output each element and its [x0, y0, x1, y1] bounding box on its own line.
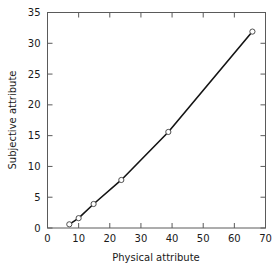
x-tick-label: 30 — [135, 233, 148, 244]
chart-plot-area: 010203040506070 05101520253035 Physical … — [0, 0, 278, 272]
data-point-marker — [91, 201, 96, 206]
figure-background — [0, 0, 278, 272]
x-tick-label: 70 — [259, 233, 272, 244]
data-point-marker — [119, 177, 124, 182]
data-point-marker — [166, 129, 171, 134]
y-tick-label: 10 — [28, 161, 41, 172]
x-tick-label: 10 — [72, 233, 85, 244]
y-tick-label: 0 — [34, 223, 40, 234]
x-tick-label: 60 — [228, 233, 241, 244]
data-point-marker — [250, 29, 255, 34]
x-tick-label: 0 — [44, 233, 50, 244]
data-point-marker — [76, 216, 81, 221]
y-tick-label: 20 — [28, 99, 41, 110]
y-tick-label: 15 — [28, 130, 41, 141]
x-tick-label: 20 — [103, 233, 116, 244]
y-tick-label: 5 — [34, 192, 40, 203]
x-tick-label: 50 — [197, 233, 210, 244]
x-axis-title: Physical attribute — [112, 252, 199, 263]
y-tick-label: 25 — [28, 69, 41, 80]
y-axis-title: Subjective attribute — [7, 70, 18, 169]
x-tick-label: 40 — [166, 233, 179, 244]
y-tick-label: 30 — [28, 38, 41, 49]
y-tick-label: 35 — [28, 7, 41, 18]
data-point-marker — [67, 222, 72, 227]
chart-figure: 010203040506070 05101520253035 Physical … — [0, 0, 278, 272]
